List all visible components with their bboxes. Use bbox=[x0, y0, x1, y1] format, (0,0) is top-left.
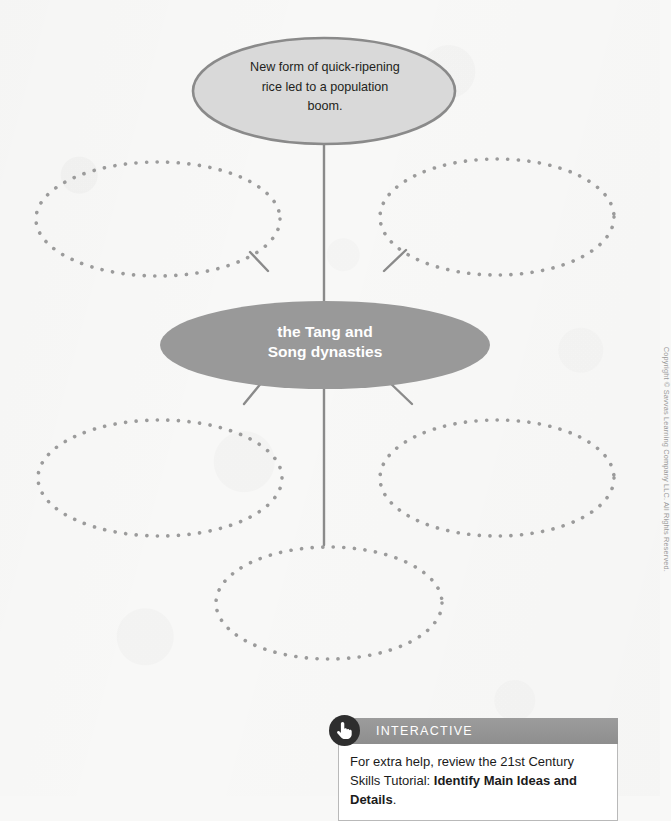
interactive-callout-header: INTERACTIVE bbox=[338, 718, 618, 744]
connector-upper-right bbox=[384, 250, 406, 271]
empty-node-lower-right[interactable] bbox=[380, 420, 614, 536]
empty-node-lower-left[interactable] bbox=[38, 420, 282, 536]
connector-upper-left bbox=[250, 252, 268, 271]
interactive-header-label: INTERACTIVE bbox=[376, 724, 473, 738]
empty-node-upper-right[interactable] bbox=[380, 159, 614, 275]
center-node-ellipse[interactable] bbox=[160, 301, 490, 389]
empty-node-upper-left[interactable] bbox=[36, 162, 280, 276]
top-node-ellipse[interactable] bbox=[193, 38, 455, 144]
pointing-hand-glyph bbox=[336, 721, 353, 740]
interactive-body-suffix: . bbox=[393, 792, 397, 807]
interactive-body-text: For extra help, review the 21st Century … bbox=[350, 753, 606, 810]
empty-node-bottom[interactable] bbox=[216, 547, 442, 659]
interactive-callout-body: For extra help, review the 21st Century … bbox=[338, 744, 618, 821]
interactive-callout[interactable]: INTERACTIVE For extra help, review the 2… bbox=[338, 718, 618, 821]
copyright-notice: Copyright © Savvas Learning Company LLC.… bbox=[662, 347, 671, 572]
pointing-hand-icon[interactable] bbox=[329, 715, 360, 746]
